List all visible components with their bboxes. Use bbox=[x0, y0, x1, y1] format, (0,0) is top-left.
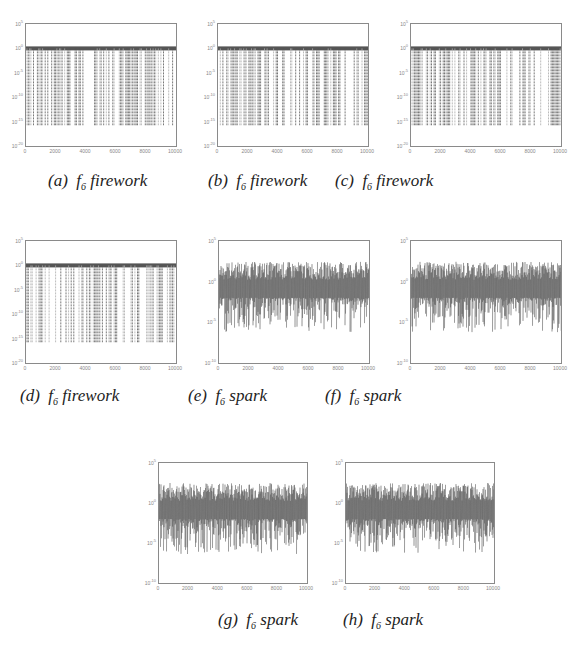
x-tick-label: 2000 bbox=[365, 585, 385, 591]
x-tick-label: 0 bbox=[208, 365, 228, 371]
x-tick-label: 0 bbox=[15, 365, 35, 371]
x-tick-label: 2000 bbox=[178, 585, 198, 591]
y-tick-label: 105 bbox=[7, 19, 23, 27]
subplot-caption: (b) f6 firework bbox=[208, 171, 307, 192]
caption-label: (d) bbox=[20, 386, 44, 405]
x-tick-label: 2000 bbox=[430, 365, 450, 371]
y-tick-label: 105 bbox=[140, 458, 156, 466]
y-tick-label: 10-10 bbox=[7, 309, 23, 317]
caption-function: f6 bbox=[211, 386, 229, 405]
caption-word: firework bbox=[62, 386, 119, 405]
caption-function: f6 bbox=[72, 171, 90, 190]
plot-area bbox=[25, 23, 177, 147]
x-tick-label: 10000 bbox=[483, 585, 503, 591]
y-tick-label: 100 bbox=[7, 43, 23, 51]
x-tick-label: 2000 bbox=[238, 365, 258, 371]
x-tick-label: 10000 bbox=[296, 585, 316, 591]
x-tick-label: 0 bbox=[148, 585, 168, 591]
y-tick-label: 10-5 bbox=[199, 68, 215, 76]
caption-word: spark bbox=[364, 386, 402, 405]
y-tick-label: 10-5 bbox=[392, 317, 408, 325]
x-tick-label: 10000 bbox=[550, 148, 570, 154]
x-tick-label: 4000 bbox=[460, 365, 480, 371]
series-line bbox=[411, 241, 561, 363]
x-tick-label: 4000 bbox=[75, 148, 95, 154]
caption-word: spark bbox=[385, 610, 423, 629]
plot-area bbox=[345, 462, 495, 584]
x-tick-label: 6000 bbox=[237, 585, 257, 591]
x-tick-label: 2000 bbox=[45, 148, 65, 154]
plot-area bbox=[410, 240, 562, 364]
caption-function: f6 bbox=[44, 386, 62, 405]
caption-function: f6 bbox=[358, 171, 376, 190]
x-tick-label: 0 bbox=[400, 148, 420, 154]
y-tick-label: 10-15 bbox=[392, 117, 408, 125]
x-tick-label: 8000 bbox=[135, 365, 155, 371]
y-tick-label: 100 bbox=[199, 43, 215, 51]
y-tick-label: 100 bbox=[140, 498, 156, 506]
caption-label: (h) bbox=[343, 610, 367, 629]
x-tick-label: 8000 bbox=[266, 585, 286, 591]
y-tick-label: 10-10 bbox=[392, 92, 408, 100]
x-tick-label: 8000 bbox=[328, 365, 348, 371]
x-tick-label: 4000 bbox=[207, 585, 227, 591]
x-tick-label: 8000 bbox=[453, 585, 473, 591]
series-line bbox=[26, 24, 176, 146]
series-line bbox=[218, 24, 368, 146]
y-tick-label: 100 bbox=[200, 277, 216, 285]
x-tick-label: 4000 bbox=[75, 365, 95, 371]
x-tick-label: 4000 bbox=[267, 148, 287, 154]
y-tick-label: 100 bbox=[7, 260, 23, 268]
y-tick-label: 105 bbox=[200, 236, 216, 244]
series-line bbox=[159, 463, 307, 583]
x-tick-label: 0 bbox=[207, 148, 227, 154]
caption-word: firework bbox=[250, 171, 307, 190]
plot-area bbox=[217, 23, 369, 147]
x-tick-label: 4000 bbox=[460, 148, 480, 154]
subplot-caption: (d) f6 firework bbox=[20, 386, 119, 407]
x-tick-label: 6000 bbox=[424, 585, 444, 591]
caption-function: f6 bbox=[345, 386, 363, 405]
y-tick-label: 105 bbox=[199, 19, 215, 27]
x-tick-label: 0 bbox=[335, 585, 355, 591]
y-tick-label: 100 bbox=[327, 498, 343, 506]
y-tick-label: 10-5 bbox=[7, 285, 23, 293]
y-tick-label: 100 bbox=[392, 277, 408, 285]
caption-word: firework bbox=[90, 171, 147, 190]
x-tick-label: 8000 bbox=[520, 365, 540, 371]
plot-area bbox=[25, 240, 177, 364]
x-tick-label: 10000 bbox=[165, 365, 185, 371]
caption-label: (a) bbox=[48, 171, 72, 190]
series-line bbox=[346, 463, 494, 583]
caption-function: f6 bbox=[242, 610, 260, 629]
x-tick-label: 2000 bbox=[45, 365, 65, 371]
caption-label: (e) bbox=[188, 386, 211, 405]
caption-word: spark bbox=[229, 386, 267, 405]
series-line bbox=[411, 24, 561, 146]
caption-function: f6 bbox=[367, 610, 385, 629]
y-tick-label: 10-10 bbox=[199, 92, 215, 100]
x-tick-label: 10000 bbox=[550, 365, 570, 371]
plot-area bbox=[410, 23, 562, 147]
subplot-caption: (a) f6 firework bbox=[48, 171, 147, 192]
y-tick-label: 10-15 bbox=[7, 334, 23, 342]
y-tick-label: 10-15 bbox=[7, 117, 23, 125]
y-tick-label: 10-5 bbox=[140, 538, 156, 546]
x-tick-label: 2000 bbox=[430, 148, 450, 154]
x-tick-label: 8000 bbox=[520, 148, 540, 154]
caption-word: spark bbox=[260, 610, 298, 629]
x-tick-label: 6000 bbox=[298, 365, 318, 371]
caption-label: (c) bbox=[335, 171, 358, 190]
caption-word: firework bbox=[376, 171, 433, 190]
x-tick-label: 10000 bbox=[165, 148, 185, 154]
subplot-caption: (e) f6 spark bbox=[188, 386, 267, 407]
subplot-caption: (h) f6 spark bbox=[343, 610, 423, 631]
y-tick-label: 105 bbox=[392, 19, 408, 27]
plot-area bbox=[218, 240, 370, 364]
x-tick-label: 10000 bbox=[358, 365, 378, 371]
x-tick-label: 6000 bbox=[105, 365, 125, 371]
x-tick-label: 8000 bbox=[327, 148, 347, 154]
caption-label: (g) bbox=[218, 610, 242, 629]
subplot-caption: (f) f6 spark bbox=[325, 386, 401, 407]
subplot-caption: (c) f6 firework bbox=[335, 171, 433, 192]
